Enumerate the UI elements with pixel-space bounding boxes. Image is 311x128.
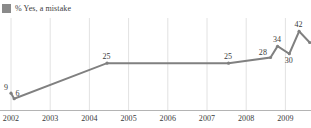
x-tick-label-2003: 2003 (31, 113, 69, 124)
data-point-value-label: 34 (273, 36, 281, 44)
x-axis-tick-labels: 20022003200420052006200720082009 (0, 113, 311, 126)
line-chart: % Yes, a mistake 9625252834304236 200220… (0, 0, 311, 128)
data-point-value-label: 28 (259, 49, 267, 57)
series-markers (9, 30, 311, 101)
legend-label: % Yes, a mistake (15, 4, 71, 13)
data-point-marker (105, 62, 108, 65)
chart-legend: % Yes, a mistake (2, 2, 71, 14)
x-axis-line (0, 110, 311, 111)
data-point-marker (276, 45, 279, 48)
plot-area: 9625252834304236 (0, 18, 311, 111)
data-point-marker (288, 52, 291, 55)
legend-square-icon (2, 4, 11, 13)
data-point-value-label: 25 (102, 53, 110, 61)
x-tick-label-2008: 2008 (227, 113, 265, 124)
data-point-marker (9, 92, 12, 95)
data-point-value-label: 9 (4, 84, 8, 92)
data-point-marker (298, 30, 301, 33)
data-point-value-label: 30 (285, 57, 293, 65)
x-tick-label-2006: 2006 (149, 113, 187, 124)
data-point-value-label: 42 (295, 21, 303, 29)
plot-canvas (0, 18, 311, 111)
data-point-value-label: 6 (16, 90, 20, 98)
data-point-marker (269, 56, 272, 59)
x-tick-label-2007: 2007 (188, 113, 226, 124)
data-point-marker (227, 62, 230, 65)
x-tick-label-2004: 2004 (70, 113, 108, 124)
x-tick-label-2005: 2005 (110, 113, 148, 124)
x-tick-label-2002: 2002 (0, 113, 30, 124)
x-tick-label-2009: 2009 (266, 113, 304, 124)
data-point-value-label: 25 (224, 53, 232, 61)
series-line-yes-a-mistake (11, 31, 310, 99)
